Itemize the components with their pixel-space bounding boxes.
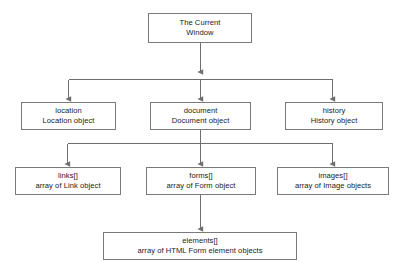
node-forms[interactable]: forms[] array of Form object (146, 167, 256, 195)
node-history-description: History object (311, 116, 358, 127)
node-images[interactable]: images[] array of Image objects (277, 167, 389, 195)
node-forms-name: forms[] (189, 171, 213, 182)
node-images-name: images[] (318, 171, 347, 182)
node-elements[interactable]: elements[] array of HTML Form element ob… (103, 232, 297, 260)
node-links-name: links[] (58, 171, 78, 182)
node-window[interactable]: The Current Window (148, 13, 252, 43)
node-images-description: array of Image objects (295, 181, 371, 192)
node-document[interactable]: document Document object (150, 102, 251, 130)
node-history-name: history (323, 106, 346, 117)
node-location[interactable]: location Location object (21, 102, 116, 130)
node-history[interactable]: history History object (285, 102, 383, 130)
node-location-description: Location object (43, 116, 95, 127)
node-window-name: The Current (179, 18, 220, 29)
diagram-canvas: The Current Window location Location obj… (0, 0, 404, 268)
node-links[interactable]: links[] array of Link object (15, 167, 121, 195)
node-elements-name: elements[] (182, 236, 218, 247)
node-links-description: array of Link object (35, 181, 100, 192)
node-document-description: Document object (172, 116, 230, 127)
node-document-name: document (184, 106, 218, 117)
node-forms-description: array of Form object (167, 181, 236, 192)
node-elements-description: array of HTML Form element objects (137, 246, 262, 257)
node-location-name: location (55, 106, 82, 117)
node-window-description: Window (186, 28, 213, 39)
